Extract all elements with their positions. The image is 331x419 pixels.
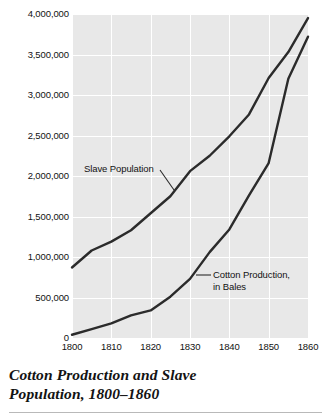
y-axis-tick-labels: 0500,0001,000,0001,500,0002,000,0002,500… [0,0,69,360]
x-axis-tick-label: 1860 [288,341,328,352]
y-axis-tick-label: 2,500,000 [3,131,69,141]
annotation-cotton-production: Cotton Production, in Bales [213,269,305,292]
y-axis-tick-label: 500,000 [3,293,69,303]
caption-divider-rule [9,412,322,413]
x-axis-tick-label: 1810 [91,341,131,352]
y-axis-tick-label: 3,000,000 [3,90,69,100]
x-axis-tick-label: 1830 [170,341,210,352]
y-axis-tick-label: 2,000,000 [3,171,69,181]
annotation-cotton-line2: in Bales [213,281,246,292]
y-axis-tick-label: 1,000,000 [3,252,69,262]
y-axis-tick-label: 4,000,000 [3,9,69,19]
caption-line-2: Population, 1800–1860 [9,385,159,402]
figure-caption: Cotton Production and Slave Population, … [9,366,309,403]
chart-plot-area: 0500,0001,000,0001,500,0002,000,0002,500… [0,0,331,360]
y-axis-tick-label: 1,500,000 [3,212,69,222]
annotation-slave-population: Slave Population [84,163,154,175]
annotation-cotton-line1: Cotton Production, [213,269,290,280]
x-axis-tick-label: 1820 [131,341,171,352]
x-axis-tick-label: 1800 [52,341,92,352]
y-axis-tick-label: 3,500,000 [3,50,69,60]
x-axis-tick-label: 1840 [209,341,249,352]
caption-line-1: Cotton Production and Slave [9,366,196,383]
x-axis-tick-labels: 1800181018201830184018501860 [0,341,331,357]
x-axis-tick-label: 1850 [249,341,289,352]
figure: 0500,0001,000,0001,500,0002,000,0002,500… [0,0,331,419]
